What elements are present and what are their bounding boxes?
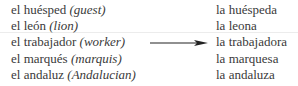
gloss: (Andalucian) <box>67 67 136 82</box>
feminine-item: la huéspeda <box>216 2 287 18</box>
masculine-word: el marqués <box>11 51 68 66</box>
masculine-word: el huésped <box>11 2 66 17</box>
masculine-item: el marqués (marquis) <box>11 51 136 67</box>
masculine-word: el león <box>11 18 46 33</box>
gloss: (guest) <box>69 2 105 17</box>
feminine-column: la huéspeda la leona la trabajadora la m… <box>216 2 287 83</box>
gloss: (lion) <box>49 18 78 33</box>
masculine-word: el trabajador <box>11 34 76 49</box>
masculine-item: el huésped (guest) <box>11 2 136 18</box>
feminine-item: la trabajadora <box>216 34 287 50</box>
feminine-item: la leona <box>216 18 287 34</box>
gloss: (marquis) <box>71 51 122 66</box>
right-arrow-icon <box>150 39 208 47</box>
masculine-word: el andaluz <box>11 67 64 82</box>
masculine-column: el huésped (guest) el león (lion) el tra… <box>11 2 136 83</box>
gloss: (worker) <box>80 34 126 49</box>
feminine-item: la marquesa <box>216 51 287 67</box>
masculine-item: el trabajador (worker) <box>11 34 136 50</box>
masculine-item: el andaluz (Andalucian) <box>11 67 136 83</box>
feminine-item: la andaluza <box>216 67 287 83</box>
masculine-item: el león (lion) <box>11 18 136 34</box>
